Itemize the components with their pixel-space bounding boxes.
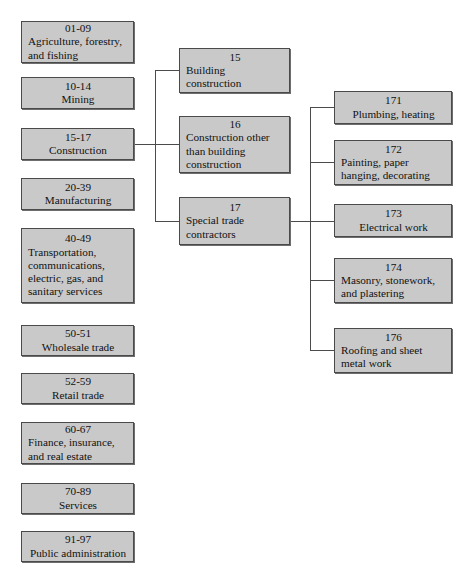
node-code: 15-17 [28,131,128,144]
node-label: Manufacturing [28,194,128,207]
node-code: 60-67 [28,423,128,436]
node-label: Roofing and sheet metal work [341,344,446,371]
node-code: 10-14 [28,80,128,93]
node-industry-group-171[interactable]: 171 Plumbing, heating [334,91,452,124]
edge-special-trade-stub [290,221,311,222]
node-division-91-97[interactable]: 91-97 Public administration [21,531,134,562]
edge-to-major-group-15 [155,70,179,71]
edge-construction-stub [133,144,156,145]
node-major-group-15[interactable]: 15 Building construction [179,48,290,93]
node-label: Plumbing, heating [341,108,446,121]
node-code: 172 [341,143,446,156]
node-label: Construction other than building constru… [186,131,284,171]
node-label: Public administration [28,547,128,560]
node-major-group-16[interactable]: 16 Construction other than building cons… [179,116,290,173]
node-code: 171 [341,94,446,107]
edge-to-major-group-17 [155,221,179,222]
node-label: Retail trade [28,389,128,402]
node-industry-group-173[interactable]: 173 Electrical work [334,204,452,237]
node-division-01-09[interactable]: 01-09 Agriculture, forestry, and fishing [21,21,134,63]
node-division-40-49[interactable]: 40-49 Transportation, communications, el… [21,228,134,303]
node-label: Painting, paper hanging, decorating [341,156,446,183]
node-label: Electrical work [341,221,446,234]
node-code: 52-59 [28,375,128,388]
node-code: 70-89 [28,485,128,498]
node-code: 50-51 [28,327,128,340]
node-label: Masonry, stonework, and plastering [341,274,446,301]
node-code: 01-09 [28,22,128,35]
node-industry-group-174[interactable]: 174 Masonry, stonework, and plastering [334,258,452,303]
node-code: 16 [186,118,284,131]
node-label: Building construction [186,64,284,91]
node-label: Wholesale trade [28,341,128,354]
node-label: Services [28,499,128,512]
node-code: 174 [341,261,446,274]
diagram-canvas: 01-09 Agriculture, forestry, and fishing… [0,0,465,586]
node-division-52-59[interactable]: 52-59 Retail trade [21,373,134,404]
node-industry-group-176[interactable]: 176 Roofing and sheet metal work [334,328,452,373]
edge-to-major-group-16 [155,144,179,145]
node-code: 173 [341,207,446,220]
node-division-70-89[interactable]: 70-89 Services [21,483,134,514]
node-label: Agriculture, forestry, and fishing [28,35,128,62]
node-label: Mining [28,93,128,106]
node-label: Transportation, communications, electric… [28,246,128,299]
node-label: Special trade contractors [186,214,284,241]
edge-to-industry-group-176 [310,350,334,351]
node-industry-group-172[interactable]: 172 Painting, paper hanging, decorating [334,140,452,185]
node-code: 15 [186,51,284,64]
node-major-group-17[interactable]: 17 Special trade contractors [179,197,290,245]
node-code: 91-97 [28,533,128,546]
node-label: Finance, insurance, and real estate [28,436,128,463]
edge-construction-trunk [155,70,156,221]
node-division-15-17[interactable]: 15-17 Construction [21,128,134,160]
node-division-10-14[interactable]: 10-14 Mining [21,77,134,109]
edge-to-industry-group-173 [310,221,334,222]
node-code: 20-39 [28,181,128,194]
node-division-20-39[interactable]: 20-39 Manufacturing [21,178,134,210]
edge-special-trade-trunk [310,107,311,350]
node-code: 17 [186,201,284,214]
edge-to-industry-group-172 [310,162,334,163]
edge-to-industry-group-174 [310,280,334,281]
node-label: Construction [28,144,128,157]
edge-to-industry-group-171 [310,107,334,108]
node-division-60-67[interactable]: 60-67 Finance, insurance, and real estat… [21,422,134,464]
node-code: 176 [341,331,446,344]
node-division-50-51[interactable]: 50-51 Wholesale trade [21,325,134,356]
node-code: 40-49 [28,232,128,245]
